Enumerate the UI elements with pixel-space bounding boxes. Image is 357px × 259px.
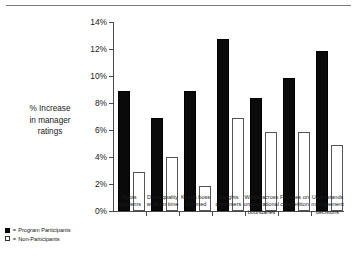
chart-legend: = Program Participants = Non-Participant… <box>5 226 70 243</box>
category-label-line: management <box>308 201 348 208</box>
x-axis-separator <box>179 211 180 216</box>
open-square-icon <box>5 236 10 241</box>
y-tick-mark <box>109 22 114 23</box>
bar-group <box>150 22 183 211</box>
y-tick-label: 4% <box>95 152 107 162</box>
bar-program-participants <box>283 78 296 212</box>
y-tick-label: 14% <box>90 17 107 27</box>
category-label: Understandsmanagementdecisions <box>308 194 348 216</box>
bar-group <box>282 22 315 211</box>
legend-label-program-participants: Program Participants <box>18 226 70 235</box>
chart-figure: % Increase in manager ratings 0%2%4%6%8%… <box>0 0 357 259</box>
y-tick-label: 10% <box>90 71 107 81</box>
y-tick-label: 8% <box>95 98 107 108</box>
y-axis-title: % Increase in manager ratings <box>6 103 94 138</box>
y-tick-mark <box>109 76 114 77</box>
x-axis-separator <box>212 211 213 216</box>
y-tick-mark <box>109 130 114 131</box>
legend-separator-2: = <box>13 235 16 244</box>
bar-group <box>117 22 150 211</box>
legend-item-non-participants: = Non-Participants <box>5 235 70 244</box>
category-label-line: Understands <box>308 194 348 201</box>
y-axis-title-line-1: % Increase <box>6 103 94 115</box>
legend-label-non-participants: Non-Participants <box>18 235 59 244</box>
y-tick-label: 2% <box>95 179 107 189</box>
y-tick-mark <box>109 211 114 212</box>
filled-square-icon <box>5 228 10 233</box>
y-tick-mark <box>109 103 114 104</box>
x-axis-separator <box>146 211 147 216</box>
y-tick-label: 12% <box>90 44 107 54</box>
bar-group <box>315 22 348 211</box>
category-label-line: boundaries <box>242 209 282 216</box>
legend-item-program-participants: = Program Participants <box>5 226 70 235</box>
legend-separator-1: = <box>13 226 16 235</box>
y-tick-label: 6% <box>95 125 107 135</box>
y-axis-title-line-3: ratings <box>6 126 94 138</box>
y-tick-label: 0% <box>95 206 107 216</box>
bar-group <box>216 22 249 211</box>
header-divider <box>6 5 351 6</box>
y-tick-mark <box>109 157 114 158</box>
y-tick-mark <box>109 184 114 185</box>
y-tick-mark <box>109 49 114 50</box>
plot-area: 0%2%4%6%8%10%12%14% <box>113 22 344 212</box>
bar-program-participants <box>316 51 329 212</box>
category-label-line: decisions <box>308 209 348 216</box>
y-axis-title-line-2: in manager <box>6 115 94 127</box>
bar-group <box>249 22 282 211</box>
bar-program-participants <box>217 39 230 212</box>
bar-group <box>183 22 216 211</box>
